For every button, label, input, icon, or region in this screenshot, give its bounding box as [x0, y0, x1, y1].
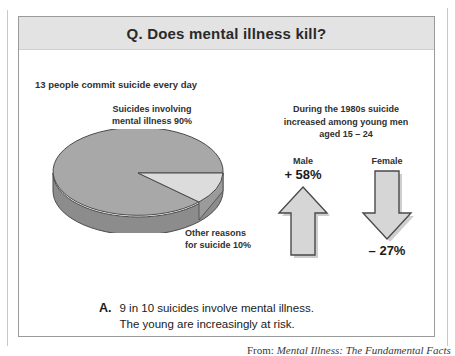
answer-marker: A.	[99, 300, 112, 316]
answer-text: 9 in 10 suicides involve mental illness.…	[120, 300, 314, 332]
female-trend-column: Female – 27%	[347, 155, 427, 259]
answer-block: A. 9 in 10 suicides involve mental illne…	[99, 300, 314, 332]
source-title: Mental Illness: The Fundamental Facts	[277, 344, 451, 356]
arrow-up-icon	[274, 183, 332, 259]
pie-slice-mental-illness	[53, 129, 223, 215]
pie-label-major-line2: mental illness 90%	[112, 116, 192, 126]
arrow-down-icon	[358, 167, 416, 243]
pie-label-major-line1: Suicides involving	[112, 104, 191, 114]
page-title: Q. Does mental illness kill?	[127, 25, 327, 42]
female-value: – 27%	[347, 243, 427, 259]
pie-label-minor-line1: Other reasons	[185, 228, 246, 238]
trend-arrows-figure: During the 1980s suicide increased among…	[257, 103, 435, 293]
pie-chart-graphic	[49, 129, 227, 233]
pie-chart-figure: Suicides involving mental illness 90% Ot…	[33, 103, 255, 263]
answer-line-2: The young are increasingly at risk.	[120, 318, 295, 330]
page-edge-rule-right	[447, 8, 448, 346]
trend-arrows-heading: During the 1980s suicide increased among…	[257, 103, 435, 141]
question-card: Q. Does mental illness kill? 13 people c…	[18, 16, 435, 337]
female-label: Female	[347, 155, 427, 167]
lead-statistic: 13 people commit suicide every day	[35, 79, 197, 90]
answer-line-1: 9 in 10 suicides involve mental illness.	[120, 302, 314, 314]
male-label: Male	[263, 155, 343, 167]
trend-heading-line1: During the 1980s suicide	[293, 104, 399, 114]
male-value: + 58%	[263, 167, 343, 183]
source-prefix: From:	[247, 344, 277, 356]
trend-heading-line3: aged 15 – 24	[319, 129, 373, 139]
male-trend-column: Male + 58%	[263, 155, 343, 259]
page-edge-rule-left	[7, 10, 8, 346]
pie-label-minor-line2: for suicide 10%	[185, 240, 251, 250]
trend-heading-line2: increased among young men	[284, 117, 409, 127]
source-attribution: From: Mental Illness: The Fundamental Fa…	[247, 344, 451, 356]
pie-label-major: Suicides involving mental illness 90%	[77, 103, 227, 127]
card-title-band: Q. Does mental illness kill?	[19, 17, 434, 50]
